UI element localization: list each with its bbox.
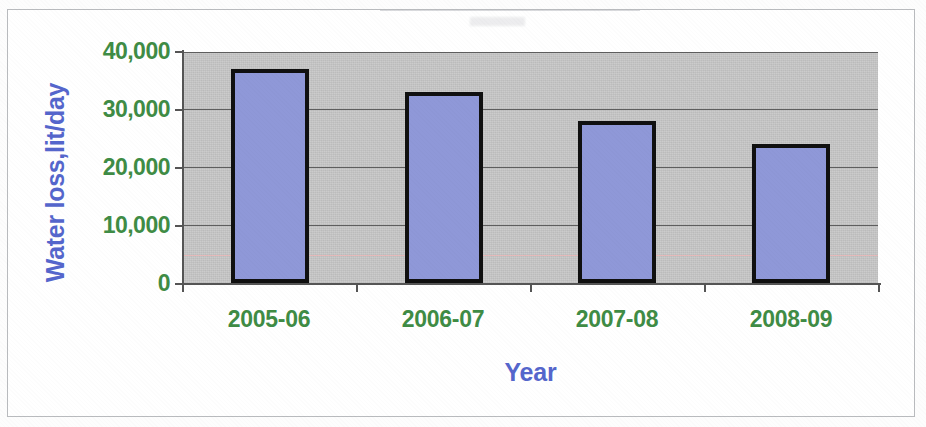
y-tick-label-40000: 40,000 <box>36 38 170 65</box>
y-tick-label-20000: 20,000 <box>36 154 170 181</box>
gridline-40000 <box>183 52 878 53</box>
bar-2007-08[interactable] <box>578 121 656 283</box>
y-tick-mark-10000 <box>175 225 184 227</box>
y-tick-label-10000: 10,000 <box>36 212 170 239</box>
x-axis-label-2006-07: 2006-07 <box>358 306 528 333</box>
y-tick-label-0: 0 <box>36 270 170 297</box>
y-tick-label-0-wrap: 0 <box>36 270 170 296</box>
y-tick-label-20000-wrap: 20,000 <box>36 154 170 180</box>
y-tick-mark-20000 <box>175 167 184 169</box>
x-tick-mark-2 <box>530 283 532 292</box>
x-axis-label-2008-09: 2008-09 <box>706 306 876 333</box>
bar-2008-09[interactable] <box>752 144 830 283</box>
bar-chart: Water loss,lit/day 40,000 30,000 20,000 <box>0 0 926 427</box>
y-tick-label-30000: 30,000 <box>36 96 170 123</box>
bar-2005-06[interactable] <box>231 69 309 283</box>
y-tick-label-40000-wrap: 40,000 <box>36 38 170 64</box>
y-tick-label-30000-wrap: 30,000 <box>36 96 170 122</box>
y-tick-mark-30000 <box>175 109 184 111</box>
x-axis-label-2005-06: 2005-06 <box>184 306 354 333</box>
y-tick-mark-40000 <box>175 51 184 53</box>
bar-2006-07[interactable] <box>405 92 483 283</box>
x-tick-mark-3 <box>704 283 706 292</box>
x-tick-mark-4 <box>878 283 880 292</box>
x-axis-line <box>176 283 881 285</box>
x-axis-title: Year <box>183 358 878 387</box>
x-axis-label-2007-08: 2007-08 <box>532 306 702 333</box>
x-tick-mark-0 <box>182 283 184 292</box>
y-tick-label-10000-wrap: 10,000 <box>36 212 170 238</box>
x-tick-mark-1 <box>356 283 358 292</box>
scanned-page: Water loss,lit/day 40,000 30,000 20,000 <box>0 0 926 427</box>
